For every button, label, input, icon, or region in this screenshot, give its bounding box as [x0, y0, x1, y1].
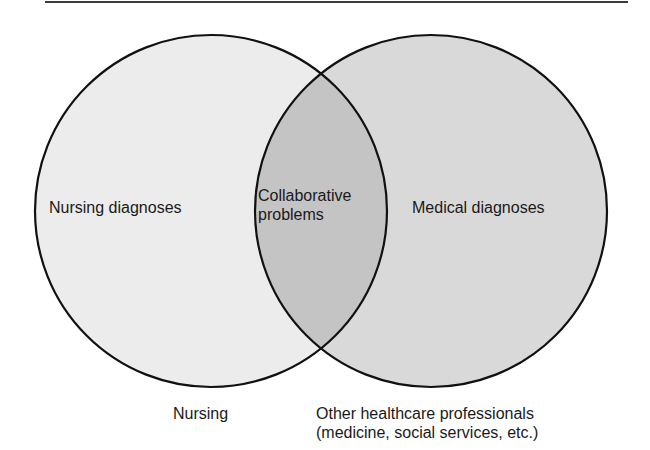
other-professionals-line-2: (medicine, social services, etc.)	[316, 423, 538, 442]
medical-diagnoses-label: Medical diagnoses	[412, 198, 545, 217]
collaborative-problems-line-2: problems	[258, 205, 351, 224]
other-professionals-set-label: Other healthcare professionals (medicine…	[316, 404, 538, 442]
collaborative-problems-label: Collaborative problems	[258, 186, 351, 224]
other-professionals-line-1: Other healthcare professionals	[316, 404, 538, 423]
nursing-set-label: Nursing	[173, 404, 228, 423]
collaborative-problems-line-1: Collaborative	[258, 186, 351, 205]
nursing-diagnoses-label: Nursing diagnoses	[49, 198, 182, 217]
venn-diagram	[0, 0, 650, 450]
